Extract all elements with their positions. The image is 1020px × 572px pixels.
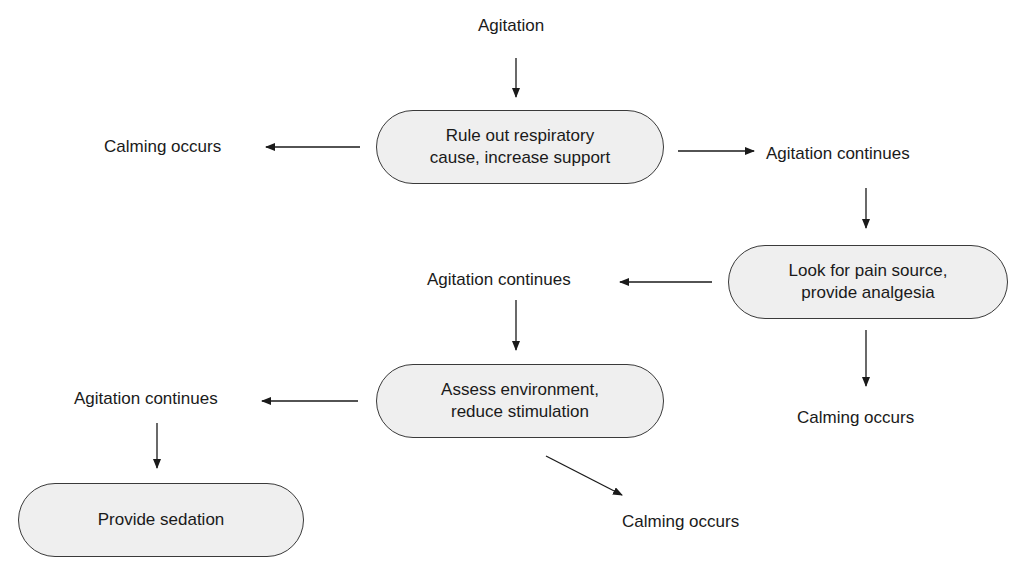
sedation-node: Provide sedation — [18, 483, 304, 557]
continue-1-label: Agitation continues — [766, 144, 910, 164]
calm-2-label: Calming occurs — [797, 408, 914, 428]
arrow-environment-to-calm — [546, 456, 622, 495]
environment-node: Assess environment, reduce stimulation — [376, 364, 664, 438]
calm-1-label: Calming occurs — [104, 137, 221, 157]
continue-3-label: Agitation continues — [74, 389, 218, 409]
continue-2-label: Agitation continues — [427, 270, 571, 290]
start-label: Agitation — [478, 16, 544, 36]
calm-3-label: Calming occurs — [622, 512, 739, 532]
pain-node: Look for pain source, provide analgesia — [728, 245, 1008, 319]
respiratory-node: Rule out respiratory cause, increase sup… — [376, 110, 664, 184]
